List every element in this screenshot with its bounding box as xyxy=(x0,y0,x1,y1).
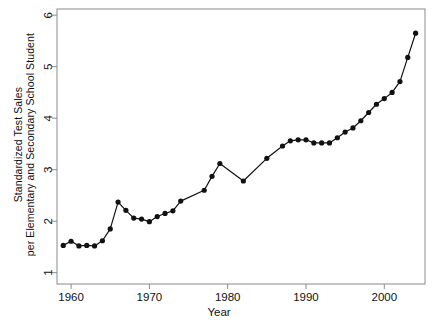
data-point-marker xyxy=(217,161,222,166)
x-axis-tick-label: 2000 xyxy=(371,291,397,303)
data-point-marker xyxy=(335,135,340,140)
y-axis-label-line-1: Standardized Test Sales xyxy=(12,87,25,202)
data-point-marker xyxy=(92,243,97,248)
data-point-marker xyxy=(288,138,293,143)
y-axis-label: Standardized Test Sales per Elementary a… xyxy=(0,0,48,290)
x-axis-tick-label: 1970 xyxy=(137,291,163,303)
x-axis-tick-label: 1980 xyxy=(215,291,241,303)
data-point-marker xyxy=(311,140,316,145)
data-point-marker xyxy=(147,219,152,224)
data-point-marker xyxy=(84,243,89,248)
data-point-marker xyxy=(155,214,160,219)
data-point-marker xyxy=(374,102,379,107)
data-point-marker xyxy=(397,79,402,84)
data-point-marker xyxy=(264,156,269,161)
data-point-marker xyxy=(413,31,418,36)
data-point-marker xyxy=(123,208,128,213)
data-point-marker xyxy=(280,143,285,148)
plot-frame xyxy=(57,9,425,284)
x-axis-label: Year xyxy=(0,306,438,318)
x-axis-tick-label: 1960 xyxy=(58,291,84,303)
data-point-marker xyxy=(405,55,410,60)
data-point-marker xyxy=(296,137,301,142)
data-point-marker xyxy=(366,110,371,115)
data-point-marker xyxy=(178,198,183,203)
data-point-marker xyxy=(390,90,395,95)
chart-figure: Standardized Test Sales per Elementary a… xyxy=(0,0,438,328)
data-point-marker xyxy=(131,215,136,220)
data-point-marker xyxy=(170,208,175,213)
data-point-marker xyxy=(68,239,73,244)
data-point-marker xyxy=(108,226,113,231)
data-point-marker xyxy=(350,125,355,130)
data-point-marker xyxy=(139,217,144,222)
data-point-marker xyxy=(241,178,246,183)
data-point-marker xyxy=(327,140,332,145)
x-axis-tick-label: 1990 xyxy=(293,291,319,303)
data-point-marker xyxy=(319,140,324,145)
data-point-marker xyxy=(76,243,81,248)
data-point-marker xyxy=(115,200,120,205)
data-point-marker xyxy=(202,188,207,193)
plot-area: 12345619601970198019902000 xyxy=(0,0,438,328)
data-point-marker xyxy=(358,118,363,123)
data-point-marker xyxy=(382,96,387,101)
data-point-marker xyxy=(100,238,105,243)
data-series-line xyxy=(63,33,415,246)
data-point-marker xyxy=(303,137,308,142)
data-point-marker xyxy=(209,174,214,179)
y-axis-label-line-2: per Elementary and Secondary School Stud… xyxy=(24,33,37,256)
data-point-marker xyxy=(343,129,348,134)
data-point-marker xyxy=(61,243,66,248)
data-point-marker xyxy=(162,211,167,216)
